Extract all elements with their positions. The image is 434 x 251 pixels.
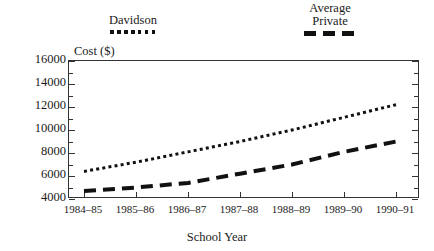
plot-area xyxy=(68,60,419,198)
series-line-davidson xyxy=(84,105,396,172)
legend-item-average-private: Average Private xyxy=(280,2,380,36)
x-axis-label-6: 1990–91 xyxy=(376,203,415,215)
dotted-line-swatch-icon xyxy=(110,30,156,34)
data-series-layer xyxy=(69,61,418,197)
y-axis-label-14000: 14000 xyxy=(0,75,75,90)
x-axis-title: School Year xyxy=(0,230,434,245)
legend-item-davidson: Davidson xyxy=(78,14,188,34)
dashed-line-swatch-icon xyxy=(304,31,356,36)
y-tick-right-4000 xyxy=(412,199,418,200)
x-axis-label-4: 1988–89 xyxy=(272,203,311,215)
legend-label-davidson: Davidson xyxy=(78,14,188,27)
y-axis-label-6000: 6000 xyxy=(0,167,75,182)
legend-label-private: Private xyxy=(280,15,380,28)
x-axis-label-0: 1984–85 xyxy=(64,203,103,215)
x-axis-label-2: 1986–87 xyxy=(168,203,207,215)
y-axis-label-12000: 12000 xyxy=(0,98,75,113)
x-axis-label-3: 1987–88 xyxy=(220,203,259,215)
y-tick-4000 xyxy=(69,199,75,200)
y-axis-label-10000: 10000 xyxy=(0,121,75,136)
cost-line-chart: Davidson Average Private Cost ($) School… xyxy=(0,0,434,251)
y-axis-title: Cost ($) xyxy=(74,44,115,59)
series-line-average-private xyxy=(84,142,396,191)
series-svg xyxy=(69,61,420,199)
y-axis-label-8000: 8000 xyxy=(0,144,75,159)
x-axis-label-1: 1985–86 xyxy=(116,203,155,215)
x-axis-label-5: 1989–90 xyxy=(324,203,363,215)
y-axis-label-16000: 16000 xyxy=(0,52,75,67)
